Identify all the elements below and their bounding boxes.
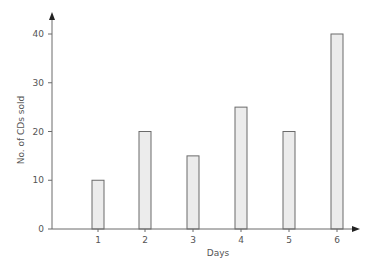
bar-chart: 010203040 123456 Days No. of CDs sold bbox=[0, 0, 378, 272]
y-tick-label: 20 bbox=[33, 127, 45, 137]
x-tick-label: 6 bbox=[334, 235, 340, 245]
x-tick-label: 3 bbox=[190, 235, 196, 245]
x-tick-label: 2 bbox=[142, 235, 148, 245]
y-tick-label: 10 bbox=[33, 175, 45, 185]
bar-day-2 bbox=[139, 132, 151, 230]
y-tick-label: 30 bbox=[33, 78, 45, 88]
x-tick-label: 5 bbox=[286, 235, 292, 245]
bar-day-5 bbox=[283, 132, 295, 230]
x-ticks: 123456 bbox=[95, 229, 340, 245]
y-tick-label: 0 bbox=[38, 224, 44, 234]
x-tick-label: 1 bbox=[95, 235, 101, 245]
bar-day-6 bbox=[331, 34, 343, 229]
bar-day-4 bbox=[235, 107, 247, 229]
bar-day-3 bbox=[187, 156, 199, 229]
bars-group bbox=[92, 34, 343, 229]
y-axis-label: No. of CDs sold bbox=[16, 96, 26, 165]
bar-day-1 bbox=[92, 180, 104, 229]
x-tick-label: 4 bbox=[238, 235, 244, 245]
x-axis-label: Days bbox=[207, 248, 230, 258]
y-tick-label: 40 bbox=[33, 29, 45, 39]
y-ticks: 010203040 bbox=[33, 29, 52, 234]
